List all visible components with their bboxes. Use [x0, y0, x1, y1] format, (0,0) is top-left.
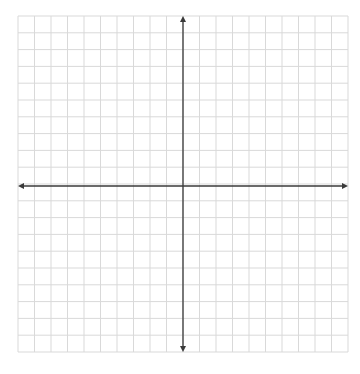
coordinate-grid	[0, 0, 360, 374]
y-axis-down-arrow-icon	[180, 346, 186, 352]
y-axis-up-arrow-icon	[180, 16, 186, 22]
